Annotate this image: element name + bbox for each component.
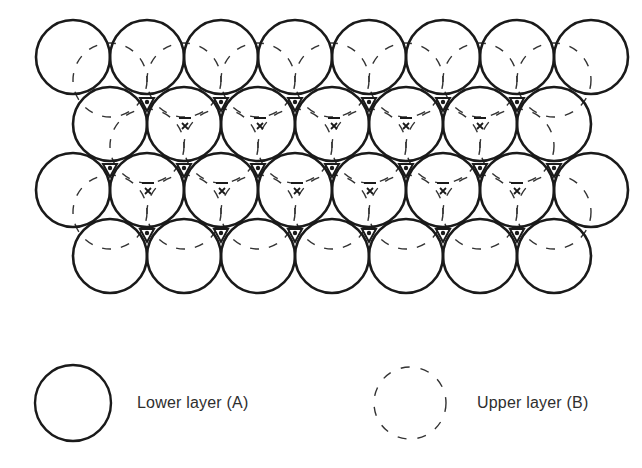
hole-dot-icon <box>515 231 519 235</box>
legend-solid-circle-icon <box>35 365 111 441</box>
lower-sphere <box>147 219 221 293</box>
lower-sphere <box>221 219 295 293</box>
hole-dot-icon <box>330 166 334 170</box>
cross-mark-icon <box>437 183 449 194</box>
hole-dot-icon <box>552 166 556 170</box>
lower-sphere <box>369 219 443 293</box>
cross-mark-icon <box>254 118 266 129</box>
hole-dot-icon <box>404 166 408 170</box>
cross-mark-icon <box>474 118 486 129</box>
hole-dot-icon <box>441 231 445 235</box>
lower-sphere <box>73 219 147 293</box>
lower-sphere <box>517 219 591 293</box>
cross-mark-icon <box>328 118 340 129</box>
hole-dot-icon <box>108 166 112 170</box>
lower-sphere <box>36 153 110 227</box>
hole-dot-icon <box>293 231 297 235</box>
cross-mark-icon <box>511 183 523 194</box>
cross-mark-icon <box>400 118 412 129</box>
lower-sphere <box>73 87 147 161</box>
legend-label-upper-layer: Upper layer (B) <box>477 394 588 412</box>
legend-dashed-circle-icon <box>374 367 446 439</box>
hole-dot-icon <box>478 166 482 170</box>
hole-dot-icon <box>219 231 223 235</box>
lower-sphere <box>295 219 369 293</box>
lower-sphere <box>443 219 517 293</box>
hole-dot-icon <box>367 231 371 235</box>
hole-dot-icon <box>441 100 445 104</box>
hole-dot-icon <box>145 231 149 235</box>
hole-dot-icon <box>256 166 260 170</box>
hole-dot-icon <box>293 100 297 104</box>
hole-dot-icon <box>145 100 149 104</box>
hole-dot-icon <box>367 100 371 104</box>
hole-dot-icon <box>515 100 519 104</box>
hole-dot-icon <box>219 100 223 104</box>
lower-sphere <box>36 20 110 94</box>
legend-label-lower-layer: Lower layer (A) <box>137 394 248 412</box>
hole-dot-icon <box>182 166 186 170</box>
lower-layer-a-solid-circles <box>36 20 628 293</box>
